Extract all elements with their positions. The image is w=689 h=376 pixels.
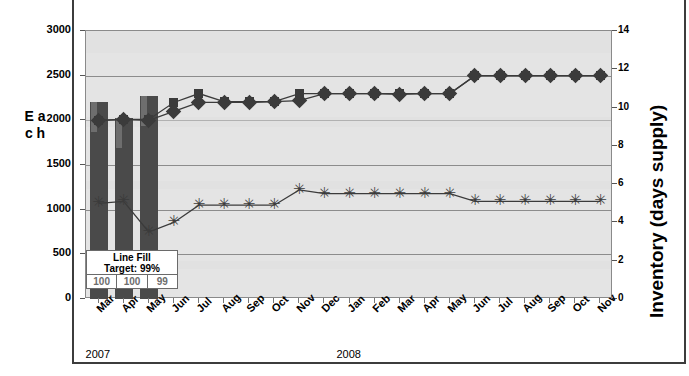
data-point-star: ✳ xyxy=(117,194,130,207)
y-tick-label-right: 14 xyxy=(618,24,640,35)
data-point-star: ✳ xyxy=(343,187,356,200)
data-point-star: ✳ xyxy=(318,187,331,200)
y-tick-label-right: 12 xyxy=(618,62,640,73)
line-fill-title: Line Fill xyxy=(87,252,177,263)
line-fill-value: 99 xyxy=(148,275,177,288)
y-axis-right-title: Inventory (days supply) xyxy=(646,292,689,318)
data-point-star: ✳ xyxy=(569,194,582,207)
y-tick-label-left: 2500 xyxy=(25,68,71,80)
line-fill-values-row: 10010099 xyxy=(87,274,177,288)
y-tick-mark-left xyxy=(80,298,85,299)
data-point-star: ✳ xyxy=(368,187,381,200)
data-point-star: ✳ xyxy=(293,183,306,196)
data-point-star: ✳ xyxy=(594,194,607,207)
line-fill-table: Line Fill Target: 99% 10010099 xyxy=(86,250,178,289)
data-point-star: ✳ xyxy=(218,198,231,211)
y-tick-label-left: 1500 xyxy=(25,157,71,169)
line-fill-target: Target: 99% xyxy=(87,263,177,274)
y-tick-label-right: 10 xyxy=(618,101,640,112)
y-tick-label-right: 4 xyxy=(618,215,640,226)
chart-screenshot: E a c h Inventory (days supply) 30002500… xyxy=(0,0,689,376)
line-fill-value: 100 xyxy=(87,275,117,288)
y-tick-label-left: 2000 xyxy=(25,112,71,124)
y-tick-label-right: 6 xyxy=(618,177,640,188)
data-point-star: ✳ xyxy=(494,194,507,207)
y-tick-label-right: 2 xyxy=(618,254,640,265)
data-point-star: ✳ xyxy=(142,225,155,238)
line-fill-value: 100 xyxy=(117,275,147,288)
x-axis-year-label: 2007 xyxy=(86,348,110,360)
data-point-star: ✳ xyxy=(544,194,557,207)
y-tick-label-left: 3000 xyxy=(25,23,71,35)
data-point-star: ✳ xyxy=(243,198,256,211)
y-tick-label-right: 0 xyxy=(618,292,640,303)
data-point-star: ✳ xyxy=(418,187,431,200)
y-tick-label-right: 8 xyxy=(618,139,640,150)
line-fill-header: Line Fill Target: 99% xyxy=(87,251,177,274)
data-point-star: ✳ xyxy=(393,187,406,200)
data-point-star: ✳ xyxy=(268,198,281,211)
data-point-star: ✳ xyxy=(167,215,180,228)
data-point-star: ✳ xyxy=(92,196,105,209)
data-point-star: ✳ xyxy=(468,194,481,207)
y-tick-label-left: 0 xyxy=(25,291,71,303)
x-axis-year-label: 2008 xyxy=(337,348,361,360)
y-tick-label-left: 1000 xyxy=(25,202,71,214)
y-tick-label-left: 500 xyxy=(25,246,71,258)
data-point-star: ✳ xyxy=(443,187,456,200)
data-point-star: ✳ xyxy=(519,194,532,207)
data-point-star: ✳ xyxy=(192,198,205,211)
